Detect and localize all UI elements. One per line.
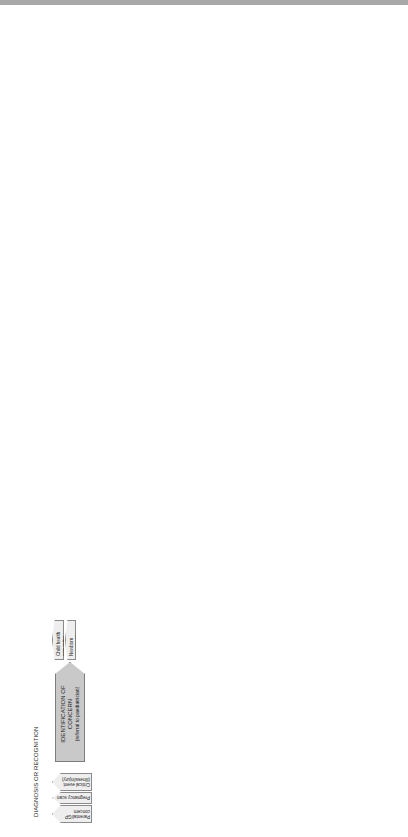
trigger-tag: Parental/GP concern (52, 805, 92, 823)
trigger-tag: Critical event (illness/injury) (52, 773, 92, 791)
page-edge-bar (0, 0, 408, 5)
diagnosis-section-title: DIAGNOSIS OR RECOGNITION (33, 727, 39, 817)
step-identification[interactable]: IDENTIFICATION OF CONCERN(referral to pa… (55, 662, 85, 762)
care-pathway-diagram: DIAGNOSIS OR RECOGNITION Parental/GP con… (0, 0, 408, 837)
trigger-tag: Child health screening (52, 620, 64, 660)
trigger-tag: Newborn examination (65, 620, 76, 660)
trigger-tag: Pregnancy scan (52, 792, 92, 804)
